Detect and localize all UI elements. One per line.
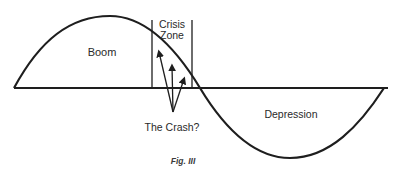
arrow-icon (172, 66, 173, 112)
boom-label: Boom (88, 46, 117, 58)
business-cycle-diagram: Boom Crisis Zone Depression The Crash? F… (0, 0, 399, 180)
depression-label: Depression (264, 108, 317, 120)
figure-caption: Fig. III (171, 156, 196, 166)
crisis-zone-label-line2: Zone (160, 29, 184, 41)
cycle-curve (14, 16, 384, 158)
arrow-icon (159, 52, 173, 112)
arrow-icon (173, 79, 184, 112)
the-crash-label: The Crash? (145, 121, 200, 133)
